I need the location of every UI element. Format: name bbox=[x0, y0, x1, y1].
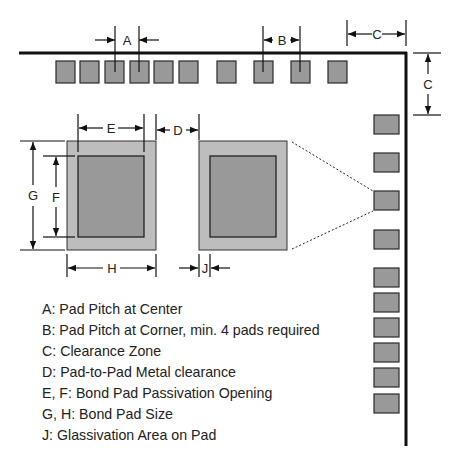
legend: A: Pad Pitch at Center B: Pad Pitch at C… bbox=[42, 299, 320, 446]
bond-pad-detail-1 bbox=[67, 141, 156, 250]
legend-item-gh: G, H: Bond Pad Size bbox=[42, 404, 320, 425]
label-f: F bbox=[52, 190, 60, 205]
bond-pad-detail-2 bbox=[199, 141, 287, 250]
label-h: H bbox=[107, 261, 116, 276]
label-c-vertical: C bbox=[423, 77, 432, 92]
legend-item-d: D: Pad-to-Pad Metal clearance bbox=[42, 362, 320, 383]
label-j: J bbox=[202, 261, 209, 276]
label-c-horizontal: C bbox=[372, 27, 381, 42]
label-g: G bbox=[28, 188, 38, 203]
legend-item-b: B: Pad Pitch at Corner, min. 4 pads requ… bbox=[42, 320, 320, 341]
label-d: D bbox=[173, 123, 182, 138]
legend-item-a: A: Pad Pitch at Center bbox=[42, 299, 320, 320]
label-a: A bbox=[123, 33, 132, 48]
label-e: E bbox=[107, 121, 116, 136]
zoom-callout-lines bbox=[292, 142, 373, 249]
legend-item-c: C: Clearance Zone bbox=[42, 341, 320, 362]
right-pad-column bbox=[374, 115, 399, 413]
legend-item-ef: E, F: Bond Pad Passivation Opening bbox=[42, 383, 320, 404]
top-pad-row bbox=[56, 61, 347, 83]
legend-item-j: J: Glassivation Area on Pad bbox=[42, 425, 320, 446]
label-b: B bbox=[278, 33, 287, 48]
